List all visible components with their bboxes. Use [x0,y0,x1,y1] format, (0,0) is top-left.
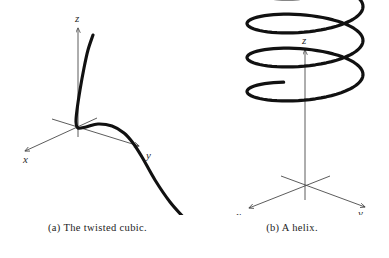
twisted-cubic-plot: x y z [0,0,195,215]
y-axis-line [281,176,365,207]
helix-plot: x y z [195,0,389,215]
y-axis-label: y [357,207,363,215]
subfigure-a-caption: (a) The twisted cubic. [0,222,195,233]
x-axis-label: x [22,153,28,165]
subfigure-helix: x y z (b) A helix. [195,0,389,258]
figure-panel: x y z (a) The twisted cubic. x y z [0,0,389,258]
x-axis-line [25,118,97,151]
z-axis-label: z [301,34,307,46]
x-axis-line [249,176,330,208]
subfigure-twisted-cubic: x y z (a) The twisted cubic. [0,0,195,258]
z-axis-label: z [74,12,80,24]
subfigure-b-caption: (b) A helix. [195,222,389,233]
x-axis-label: x [235,209,241,215]
y-axis-label: y [145,149,151,161]
twisted-cubic-curve [76,35,185,215]
